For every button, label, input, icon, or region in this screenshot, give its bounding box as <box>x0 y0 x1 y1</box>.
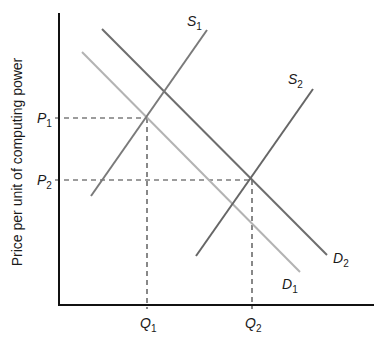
d2-label: D2 <box>333 250 349 269</box>
p2-label: P2 <box>37 172 52 191</box>
y-axis-title: Price per unit of computing power <box>9 57 25 266</box>
supply-demand-diagram: Price per unit of computing power P1 P2 … <box>0 0 382 342</box>
supply-curve-s2 <box>196 89 313 256</box>
q2-label: Q2 <box>245 315 262 334</box>
p1-label: P1 <box>37 110 52 129</box>
d1-label: D1 <box>282 276 298 295</box>
supply-curve-s1 <box>91 30 207 196</box>
demand-curve-d2 <box>102 29 327 255</box>
q1-label: Q1 <box>140 315 157 334</box>
s2-label: S2 <box>288 71 303 90</box>
axes <box>58 13 374 306</box>
guide-lines <box>55 118 252 309</box>
s1-label: S1 <box>187 13 202 32</box>
